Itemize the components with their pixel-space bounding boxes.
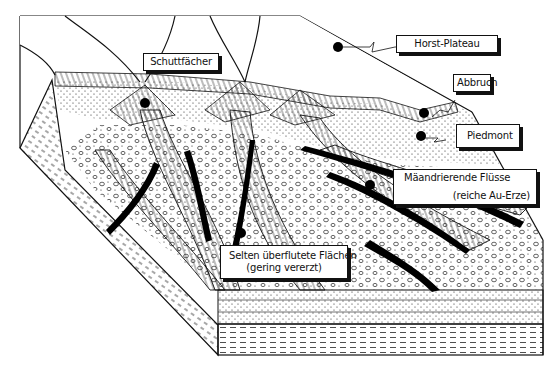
maeandrierende-fluesse-title: Mäandrierende Flüsse: [400, 172, 530, 184]
selten-ueberflutete-subtitle: (gering vererzt): [229, 262, 339, 274]
marker-selten-ueberflutete: [236, 228, 246, 238]
front-face-strata: [218, 290, 543, 355]
marker-horst-plateau: [333, 42, 343, 52]
label-maeandrierende-fluesse: Mäandrierende Flüsse (reiche Au-Erze): [393, 169, 537, 205]
label-horst-plateau: Horst-Plateau: [396, 35, 498, 53]
marker-schuttfaecher: [140, 98, 150, 108]
marker-maeandrierende-fluesse: [365, 180, 375, 190]
maeandrierende-fluesse-subtitle: (reiche Au-Erze): [400, 190, 530, 202]
label-selten-ueberflutete: Selten überflutete Flächen (gering verer…: [220, 245, 348, 279]
label-schuttfaecher: Schuttfächer: [143, 53, 219, 71]
label-abbruch: Abbruch: [453, 74, 491, 92]
marker-abbruch: [419, 108, 429, 118]
label-piedmont: Piedmont: [456, 124, 520, 148]
selten-ueberflutete-title: Selten überflutete Flächen: [229, 250, 339, 262]
marker-piedmont: [416, 131, 426, 141]
